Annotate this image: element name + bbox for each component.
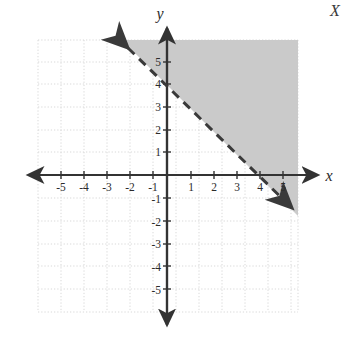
y-tick-label: 2 (155, 124, 161, 136)
y-tick-label: 1 (155, 146, 161, 158)
y-tick-label: -5 (151, 284, 161, 296)
x-tick-label: 5 (280, 181, 286, 193)
x-tick-label: 1 (188, 181, 194, 193)
y-tick-label: -4 (151, 261, 161, 273)
x-tick-label: 3 (234, 181, 240, 193)
x-tick-label: 2 (211, 181, 217, 193)
x-tick-labels: -5 -4 -3 -2 -1 1 2 3 4 5 (56, 181, 286, 193)
x-tick-label: -3 (102, 181, 112, 193)
x-tick-label: -4 (79, 181, 89, 193)
x-tick-label: -2 (125, 181, 135, 193)
y-axis-label: y (154, 5, 164, 23)
y-tick-label: 3 (155, 101, 161, 113)
x-axis-label: x (324, 167, 332, 184)
y-tick-label: -2 (151, 216, 161, 228)
y-tick-label: 4 (155, 78, 161, 90)
y-tick-label: -3 (151, 238, 161, 250)
y-tick-label: 5 (155, 56, 161, 68)
y-tick-label: -1 (151, 193, 161, 205)
x-tick-label: -1 (148, 181, 158, 193)
graph-figure: X (0, 0, 351, 338)
x-tick-label: 4 (257, 181, 263, 193)
coordinate-plane-svg: -5 -4 -3 -2 -1 1 2 3 4 5 5 4 3 2 1 -1 -2… (0, 0, 351, 338)
x-tick-label: -5 (56, 181, 66, 193)
